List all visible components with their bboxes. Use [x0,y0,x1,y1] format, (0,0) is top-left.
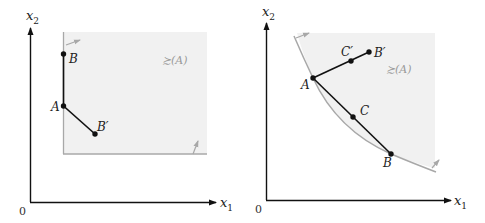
point-C [350,114,355,119]
origin-label: 0 [19,205,26,218]
point-Bprime-label: B′ [373,46,386,60]
point-Cprime [348,58,353,63]
figure-canvas: x2 x1 0 ≿(A) B A B′ x2 x1 0 ≿(A) A C′ [0,0,485,223]
origin-label: 0 [255,203,262,216]
point-B-label: B [68,52,78,66]
y-axis-label: x2 [26,8,39,26]
region-label: ≿(A) [386,63,412,76]
point-B-label: B [382,156,392,170]
right-panel: x2 x1 0 ≿(A) A C′ B′ C B [255,4,467,216]
point-A-label: A [300,78,310,92]
point-Cprime-label: C′ [341,45,353,59]
x-axis-label: x1 [220,195,233,213]
point-A [310,75,315,80]
left-panel: x2 x1 0 ≿(A) B A B′ [19,8,233,218]
point-A-label: A [50,100,60,114]
region-label: ≿(A) [162,54,188,67]
point-B [61,51,66,56]
point-Bprime [366,49,371,54]
point-C-label: C [360,104,369,118]
x-axis-label: x1 [454,193,467,211]
upper-contour-region [63,32,207,154]
y-axis-label: x2 [262,4,275,22]
point-A [61,103,66,108]
point-Bprime-label: B′ [96,120,109,134]
